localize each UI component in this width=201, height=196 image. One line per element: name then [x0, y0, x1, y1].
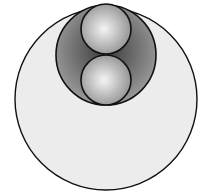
bottom-small-sphere	[81, 55, 131, 105]
top-small-sphere	[81, 4, 131, 54]
spheres-diagram	[0, 0, 201, 196]
